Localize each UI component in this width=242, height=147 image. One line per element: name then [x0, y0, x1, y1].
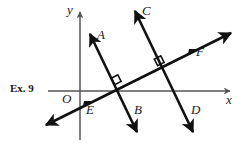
line-cd	[135, 11, 193, 132]
point-label-f: F	[196, 45, 204, 58]
figure-canvas	[0, 0, 242, 147]
point-label-e: E	[86, 103, 94, 116]
point-label-d: D	[191, 103, 200, 116]
geometry-figure: Ex. 9 A B C D E F O x y	[0, 0, 242, 147]
y-axis-label: y	[67, 3, 73, 16]
point-label-b: B	[134, 103, 142, 116]
exercise-tag: Ex. 9	[10, 83, 34, 94]
origin-label: O	[62, 92, 71, 105]
point-label-c: C	[142, 4, 151, 17]
x-axis-label: x	[226, 93, 232, 106]
point-label-a: A	[97, 28, 105, 41]
